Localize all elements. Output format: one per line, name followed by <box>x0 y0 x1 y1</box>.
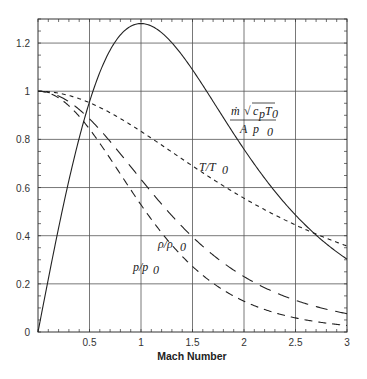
den-sub-0: 0 <box>267 125 273 139</box>
x-tick-labels: 0.511.522.53 <box>83 337 351 348</box>
x-tick-label: 1.5 <box>186 337 200 348</box>
x-tick-label: 0.5 <box>83 337 97 348</box>
x-axis-label: Mach Number <box>157 350 226 362</box>
y-tick-label: 0 <box>24 327 30 338</box>
y-tick-label: 1 <box>24 86 30 97</box>
x-tick-label: 2.5 <box>289 337 303 348</box>
y-tick-label: 0.8 <box>16 134 30 145</box>
y-tick-label: 0.4 <box>16 231 30 242</box>
mdot-symbol: ṁ <box>231 104 240 118</box>
p-sub: 0 <box>153 263 159 277</box>
sqrt-sub-p: p <box>258 107 265 121</box>
annotation-T-over-T0: T/T 0 <box>199 160 228 177</box>
tt0-sub: 0 <box>222 163 228 177</box>
tt0-text: T/T <box>199 160 217 174</box>
rho-sub: 0 <box>180 240 186 254</box>
x-tick-label: 2 <box>241 337 247 348</box>
annotation-mass-flow: ṁ √ c p T 0 A p 0 <box>230 103 278 139</box>
sqrt-sub-0: 0 <box>272 107 278 121</box>
chart: 0.511.522.53 00.20.40.60.811.2 Mach Numb… <box>0 0 367 379</box>
x-tick-label: 1 <box>138 337 144 348</box>
y-tick-label: 0.2 <box>16 279 30 290</box>
p-text: p/p <box>132 260 148 274</box>
annotation-rho-over-rho0: ρ/ρ 0 <box>157 237 186 254</box>
y-tick-labels: 00.20.40.60.811.2 <box>16 38 30 338</box>
grid-lines <box>38 19 347 332</box>
rho-text: ρ/ρ <box>157 237 173 251</box>
annotation-p-over-p0: p/p 0 <box>132 260 159 277</box>
denominator: A p <box>239 122 259 136</box>
x-tick-label: 3 <box>344 337 350 348</box>
y-tick-label: 1.2 <box>16 38 30 49</box>
y-tick-label: 0.6 <box>16 183 30 194</box>
sqrt-sign: √ <box>244 104 251 118</box>
